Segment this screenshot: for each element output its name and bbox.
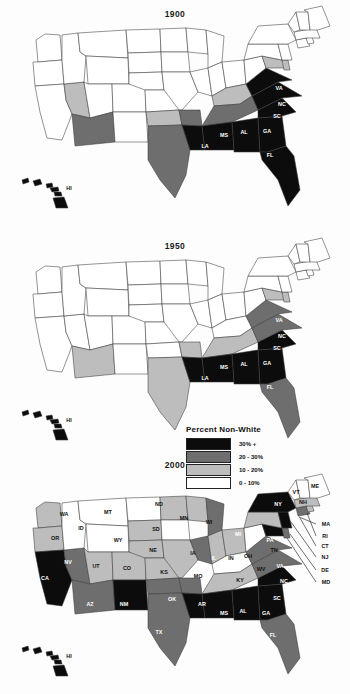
legend-swatch-30plus bbox=[186, 438, 231, 450]
label-SC: SC bbox=[273, 113, 281, 119]
label-OR: OR bbox=[51, 535, 59, 541]
state-ND bbox=[126, 29, 161, 53]
label-RI: RI bbox=[322, 533, 328, 539]
state-TX bbox=[148, 357, 190, 430]
label-TX: TX bbox=[156, 629, 163, 635]
label-MD: MD bbox=[322, 579, 330, 585]
label-MS: MS bbox=[220, 132, 228, 138]
state-NM bbox=[113, 580, 148, 610]
legend-row-10to20: 10 - 20% bbox=[186, 463, 290, 476]
state-OK bbox=[146, 110, 182, 126]
label-OH: OH bbox=[244, 553, 252, 559]
label-NC: NC bbox=[278, 333, 286, 339]
legend-row-20to30: 20 - 30% bbox=[186, 450, 290, 463]
state-HI bbox=[22, 646, 68, 676]
us-map-1900: VA NC SC GA FL AL MS LA HI bbox=[0, 0, 350, 232]
label-CO: CO bbox=[123, 565, 131, 571]
state-WY bbox=[86, 288, 129, 316]
label-MT: MT bbox=[104, 509, 112, 515]
label-LA: LA bbox=[201, 143, 208, 149]
state-AR bbox=[179, 342, 202, 358]
state-SD bbox=[128, 284, 162, 305]
choropleth-figure: 1900 bbox=[0, 0, 350, 694]
state-DE bbox=[282, 60, 290, 70]
label-DE: DE bbox=[321, 567, 329, 573]
label-SD: SD bbox=[152, 526, 160, 532]
label-MS: MS bbox=[220, 364, 228, 370]
label-ME: ME bbox=[311, 483, 319, 489]
label-NH: NH bbox=[299, 499, 307, 505]
legend-rows: 30% + 20 - 30% 10 - 20% 0 - 10% bbox=[186, 437, 290, 489]
state-MT bbox=[78, 498, 128, 526]
map-legend: Percent Non-White 30% + 20 - 30% 10 - 20… bbox=[186, 425, 290, 489]
label-AL: AL bbox=[239, 608, 247, 614]
label-NE: NE bbox=[149, 547, 157, 553]
label-WV: WV bbox=[257, 566, 266, 572]
us-map-2000: WA OR CA NV ID MT WY UT CO AZ NM ND SD N… bbox=[0, 460, 350, 694]
label-MA: MA bbox=[322, 521, 330, 527]
state-OR bbox=[33, 292, 64, 318]
label-MO: MO bbox=[194, 573, 203, 579]
label-GA: GA bbox=[263, 128, 271, 134]
label-FL: FL bbox=[270, 632, 277, 638]
state-AZ bbox=[72, 344, 115, 378]
label-TN: TN bbox=[270, 547, 277, 553]
label-IL: IL bbox=[212, 555, 217, 561]
label-TN-2: TN bbox=[222, 590, 229, 596]
label-WI: WI bbox=[206, 519, 213, 525]
label-NV: NV bbox=[64, 559, 72, 565]
label-VA: VA bbox=[276, 563, 283, 569]
map-panel-2000: 2000 bbox=[0, 460, 350, 694]
state-AZ bbox=[72, 580, 115, 614]
label-OK: OK bbox=[168, 596, 176, 602]
map-panel-1900: 1900 bbox=[0, 0, 350, 232]
state-WI bbox=[186, 260, 208, 286]
state-WA bbox=[36, 266, 62, 294]
label-PA: PA bbox=[266, 537, 273, 543]
label-LA: LA bbox=[200, 628, 207, 634]
legend-title: Percent Non-White bbox=[186, 425, 290, 434]
state-MN bbox=[160, 260, 188, 284]
states-1950 bbox=[22, 238, 330, 440]
label-NY: NY bbox=[274, 501, 282, 507]
state-IA bbox=[161, 520, 190, 540]
state-FL bbox=[260, 614, 300, 674]
state-AR bbox=[179, 578, 202, 594]
label-MS: MS bbox=[220, 610, 228, 616]
label-CA: CA bbox=[41, 575, 49, 581]
state-OR bbox=[33, 60, 64, 86]
states-2000 bbox=[22, 474, 330, 676]
label-AL: AL bbox=[240, 361, 248, 367]
state-WA bbox=[36, 502, 62, 528]
legend-label-30plus: 30% + bbox=[239, 441, 256, 447]
state-AL bbox=[232, 350, 260, 384]
label-UT: UT bbox=[92, 563, 100, 569]
state-NM bbox=[113, 112, 148, 142]
state-DE bbox=[282, 528, 290, 538]
label-ND: ND bbox=[155, 501, 163, 507]
state-WI bbox=[186, 496, 208, 522]
legend-row-0to10: 0 - 10% bbox=[186, 476, 290, 489]
label-FL: FL bbox=[267, 152, 274, 158]
label-CT: CT bbox=[321, 543, 329, 549]
state-TX bbox=[148, 593, 190, 666]
state-WI bbox=[186, 28, 208, 54]
state-OK bbox=[146, 578, 182, 594]
label-SC: SC bbox=[273, 345, 281, 351]
label-IA: IA bbox=[190, 550, 195, 556]
leader-CT bbox=[300, 518, 316, 546]
label-HI: HI bbox=[66, 417, 72, 423]
label-NM: NM bbox=[120, 601, 129, 607]
state-MT bbox=[78, 30, 128, 58]
state-SD bbox=[128, 52, 162, 73]
label-VT: VT bbox=[293, 489, 301, 495]
state-WY bbox=[86, 56, 129, 84]
state-MN bbox=[160, 28, 188, 52]
legend-row-30plus: 30% + bbox=[186, 437, 290, 450]
state-AR bbox=[179, 110, 202, 126]
label-KS: KS bbox=[160, 569, 168, 575]
legend-label-10to20: 10 - 20% bbox=[239, 467, 263, 473]
legend-swatch-0to10 bbox=[186, 477, 231, 489]
label-HI: HI bbox=[66, 653, 72, 659]
state-NY bbox=[248, 256, 296, 276]
